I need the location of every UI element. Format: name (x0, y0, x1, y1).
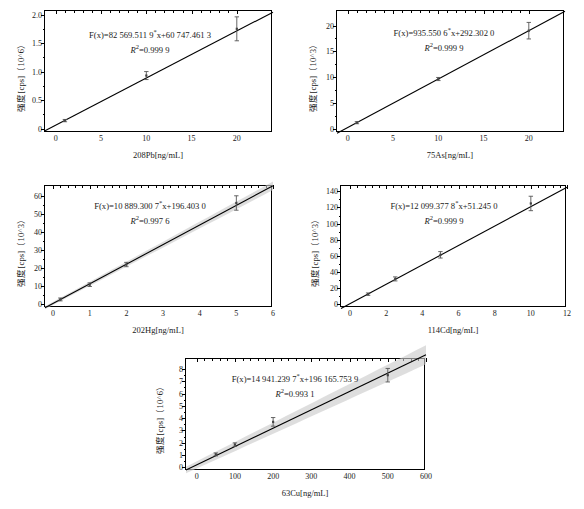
regression-equation-hg202: F(x)=10 889.300 7*x+196.403 0R2=0.997 6 (94, 197, 206, 227)
equation-line: F(x)=82 569.511 9*x+60 747.461 3 (89, 26, 211, 41)
x-tick-label: 6 (457, 306, 461, 318)
confidence-band (186, 345, 426, 473)
x-tick-label: 0 (51, 306, 55, 318)
x-tick-label: 5 (391, 131, 395, 143)
x-tick-label: 200 (267, 469, 279, 481)
y-axis-label-hg202: 强度[cps]（10^3） (14, 215, 26, 287)
y-axis-label-cu63: 强度[cps]（10^6） (153, 382, 165, 454)
x-tick-label: 3 (161, 306, 165, 318)
x-tick-label: 0 (195, 469, 199, 481)
x-axis-label-pb208: 208Pb[ng/mL] (44, 150, 272, 160)
data-point-errorbar (529, 196, 533, 210)
y-axis-label-as75: 强度[cps]（10^3） (306, 40, 318, 112)
chart-panel-cd114: 020406080100120140024681012F(x)=12 099.3… (292, 175, 584, 350)
x-tick-label: 0 (346, 131, 350, 143)
regression-equation-cu63: F(x)=14 941.239 7*x+196 165.753 9R2=0.99… (232, 370, 359, 400)
charts-row-3: 0123456780100200300400500600F(x)=14 941.… (0, 350, 584, 509)
x-tick-label: 4 (198, 306, 202, 318)
x-tick-label: 6 (271, 306, 275, 318)
x-tick-label: 2 (124, 306, 128, 318)
r-squared-line: R2=0.997 6 (94, 212, 206, 227)
data-point-errorbar (355, 122, 359, 124)
x-tick-label: 10 (434, 131, 442, 143)
charts-row-1: 00.51.01.52.005101520F(x)=82 569.511 9*x… (0, 0, 584, 175)
x-tick-label: 8 (493, 306, 497, 318)
x-tick-label: 20 (233, 131, 241, 143)
chart-panel-hg202: 01020304050600123456F(x)=10 889.300 7*x+… (0, 175, 292, 350)
x-tick-label: 20 (525, 131, 533, 143)
data-point-errorbar (366, 293, 370, 295)
r-squared-line: R2=0.999 9 (394, 39, 495, 54)
chart-panel-as75: 0510152005101520F(x)=935.550 6*x+292.302… (292, 0, 584, 175)
charts-row-2: 01020304050600123456F(x)=10 889.300 7*x+… (0, 175, 584, 350)
x-tick-mark (273, 185, 274, 189)
regression-equation-as75: F(x)=935.550 6*x+292.302 0R2=0.999 9 (394, 24, 495, 54)
x-axis-label-cu63: 63Cu[ng/mL] (185, 488, 425, 498)
x-axis-label-cd114: 114Cd[ng/mL] (340, 325, 566, 335)
x-tick-label: 15 (188, 131, 196, 143)
x-tick-mark (567, 185, 568, 189)
equation-line: F(x)=14 941.239 7*x+196 165.753 9 (232, 370, 359, 385)
x-tick-label: 10 (142, 131, 150, 143)
chart-panel-pb208: 00.51.01.52.005101520F(x)=82 569.511 9*x… (0, 0, 292, 175)
equation-line: F(x)=935.550 6*x+292.302 0 (394, 24, 495, 39)
chart-panel-cu63: 0123456780100200300400500600F(x)=14 941.… (137, 350, 447, 509)
x-axis-label-as75: 75As[ng/mL] (336, 150, 564, 160)
x-tick-label: 0 (54, 131, 58, 143)
y-axis-label-cd114: 强度[cps]（10^3） (308, 215, 320, 287)
x-tick-label: 400 (344, 469, 356, 481)
x-tick-label: 600 (420, 469, 432, 481)
x-tick-label: 12 (563, 306, 571, 318)
x-tick-label: 300 (305, 469, 317, 481)
x-tick-label: 10 (527, 306, 535, 318)
regression-equation-cd114: F(x)=12 099.377 8*x+51.245 0R2=0.999 9 (390, 197, 497, 227)
x-tick-label: 2 (384, 306, 388, 318)
r-squared-line: R2=0.999 9 (89, 41, 211, 56)
x-tick-label: 4 (420, 306, 424, 318)
regression-equation-pb208: F(x)=82 569.511 9*x+60 747.461 3R2=0.999… (89, 26, 211, 56)
x-tick-label: 0 (348, 306, 352, 318)
x-tick-label: 100 (229, 469, 241, 481)
equation-line: F(x)=10 889.300 7*x+196.403 0 (94, 197, 206, 212)
r-squared-line: R2=0.993 1 (232, 385, 359, 400)
x-tick-mark (426, 358, 427, 362)
x-tick-label: 5 (99, 131, 103, 143)
data-point-errorbar (527, 22, 531, 39)
x-tick-label: 1 (88, 306, 92, 318)
equation-line: F(x)=12 099.377 8*x+51.245 0 (390, 197, 497, 212)
x-tick-label: 5 (234, 306, 238, 318)
x-axis-label-hg202: 202Hg[ng/mL] (44, 325, 272, 335)
data-point-errorbar (235, 17, 239, 41)
x-tick-label: 15 (480, 131, 488, 143)
r-squared-line: R2=0.999 9 (390, 212, 497, 227)
y-axis-label-pb208: 强度[cps]（10^6） (14, 40, 26, 112)
x-tick-label: 500 (382, 469, 394, 481)
